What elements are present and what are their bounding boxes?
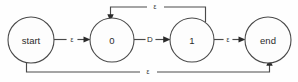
- edge-label-start-to-zero: ε: [71, 36, 74, 43]
- edge-label-start-to-end: ε: [147, 68, 150, 75]
- node-start-label: start: [22, 35, 41, 46]
- fsm-diagram: ε ε ε D ε: [0, 0, 298, 82]
- node-zero-label: 0: [109, 35, 114, 46]
- edge-zero-to-one: D: [134, 35, 171, 44]
- edge-start-to-end-bypass: ε: [27, 59, 273, 77]
- arrow-head-into-one-left: [163, 36, 170, 43]
- edge-one-to-end: ε: [214, 36, 246, 43]
- edge-start-to-zero: ε: [54, 36, 91, 43]
- edge-label-one-to-end: ε: [227, 36, 230, 43]
- node-end-label: end: [260, 35, 276, 46]
- arrow-head-into-zero-left: [84, 36, 91, 42]
- fsm-canvas: ε ε ε D ε: [0, 0, 298, 82]
- node-one-label: 1: [189, 35, 194, 46]
- node-zero[interactable]: 0: [90, 18, 134, 62]
- edge-label-zero-to-one: D: [147, 35, 153, 44]
- edge-label-one-to-zero: ε: [154, 3, 157, 10]
- node-end[interactable]: end: [245, 17, 291, 63]
- arrow-head-into-end-left: [239, 36, 246, 42]
- node-one[interactable]: 1: [170, 18, 214, 62]
- node-start[interactable]: start: [8, 17, 54, 63]
